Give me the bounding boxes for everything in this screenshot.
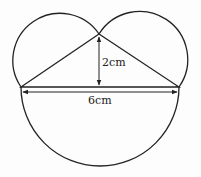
diagram-canvas: 2cm 6cm <box>0 0 201 177</box>
base-label: 6cm <box>88 94 112 107</box>
left-semicircle <box>13 13 99 87</box>
right-semicircle <box>99 11 188 87</box>
triangle <box>21 34 179 87</box>
height-label: 2cm <box>102 56 126 69</box>
geometry-figure: 2cm 6cm <box>0 0 201 177</box>
